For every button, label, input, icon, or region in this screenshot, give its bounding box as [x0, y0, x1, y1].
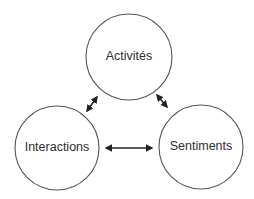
arrow-activites-sentiments: [157, 95, 167, 107]
arrow-activites-interactions: [87, 97, 97, 111]
node-label-interactions: Interactions: [25, 141, 90, 154]
node-label-sentiments: Sentiments: [170, 140, 233, 153]
node-label-activites: Activités: [106, 50, 153, 63]
diagram-canvas: Activités Interactions Sentiments: [0, 0, 254, 199]
diagram-graphics: [0, 0, 254, 199]
